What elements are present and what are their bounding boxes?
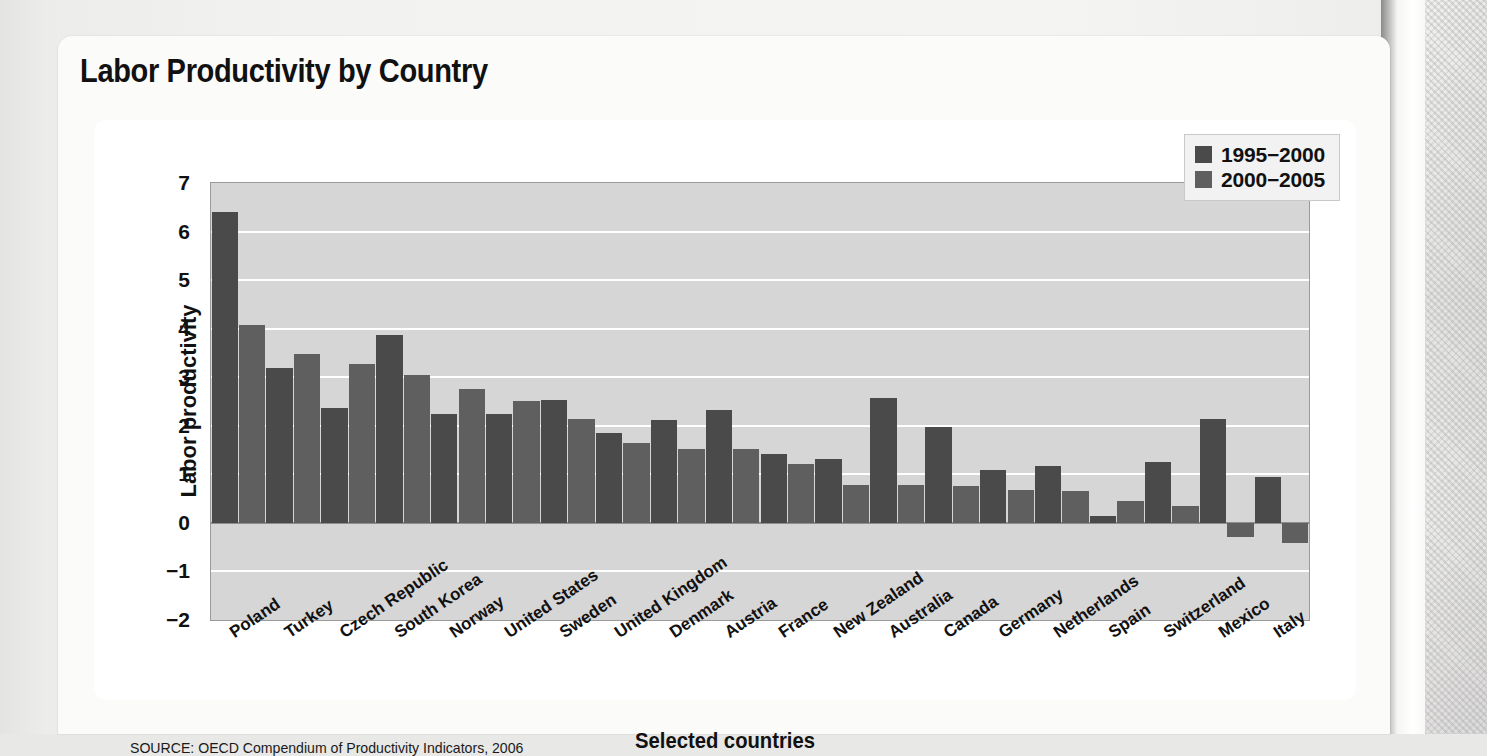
bar xyxy=(1035,466,1061,523)
y-tick-label: 1 xyxy=(130,462,190,486)
bar xyxy=(733,449,759,523)
bar xyxy=(1117,501,1143,523)
bar xyxy=(1282,523,1308,543)
bar xyxy=(788,464,814,523)
plot-area xyxy=(210,182,1310,621)
bar xyxy=(1255,477,1281,523)
bar-group xyxy=(1089,183,1144,620)
bar xyxy=(870,398,896,523)
bar xyxy=(212,212,238,523)
bar-group xyxy=(266,183,321,620)
y-tick-label: 2 xyxy=(130,414,190,438)
bar xyxy=(349,364,375,523)
bar xyxy=(459,389,485,523)
source-note: SOURCE: OECD Compendium of Productivity … xyxy=(130,739,523,756)
y-tick-label: −2 xyxy=(130,608,190,632)
figure-card: Labor Productivity by Country Labor prod… xyxy=(58,36,1390,734)
y-tick-label: 3 xyxy=(130,365,190,389)
y-tick-label: 6 xyxy=(130,220,190,244)
bar xyxy=(678,449,704,523)
bar-group xyxy=(705,183,760,620)
x-axis-tick-labels: PolandTurkeyCzech RepublicSouth KoreaNor… xyxy=(210,620,1308,730)
bar-group xyxy=(980,183,1035,620)
bar xyxy=(1200,419,1226,522)
bar xyxy=(815,459,841,523)
bar xyxy=(1145,462,1171,523)
bar-group xyxy=(760,183,815,620)
bar-group xyxy=(870,183,925,620)
bar-group xyxy=(211,183,266,620)
bar-group xyxy=(815,183,870,620)
bar xyxy=(376,335,402,522)
bar-group xyxy=(431,183,486,620)
y-tick-label: −1 xyxy=(130,559,190,583)
bar xyxy=(925,427,951,523)
bar xyxy=(1062,491,1088,523)
bar xyxy=(321,408,347,523)
bar-group xyxy=(321,183,376,620)
bar-group xyxy=(1199,183,1254,620)
bar xyxy=(486,414,512,523)
bar-group xyxy=(486,183,541,620)
legend-label-2000-2005: 2000−2005 xyxy=(1221,168,1325,192)
chart-legend: 1995−2000 2000−2005 xyxy=(1184,134,1340,201)
bar xyxy=(541,400,567,523)
bar xyxy=(651,420,677,523)
bar xyxy=(980,470,1006,522)
bar xyxy=(953,486,979,523)
bar-group xyxy=(376,183,431,620)
bar xyxy=(294,354,320,522)
legend-item: 2000−2005 xyxy=(1195,167,1325,192)
bar xyxy=(898,485,924,523)
bar xyxy=(568,419,594,522)
y-tick-label: 7 xyxy=(130,171,190,195)
bar xyxy=(761,454,787,523)
legend-swatch-2000-2005 xyxy=(1195,171,1212,188)
chart-title: Labor Productivity by Country xyxy=(80,52,488,90)
bar xyxy=(431,414,457,523)
y-tick-label: 0 xyxy=(130,511,190,535)
bar xyxy=(596,433,622,523)
bar xyxy=(843,485,869,523)
legend-item: 1995−2000 xyxy=(1195,142,1325,167)
plot-wrapper: 76543210−1−2 PolandTurkeyCzech RepublicS… xyxy=(94,120,1356,700)
bar-group xyxy=(1254,183,1309,620)
bar xyxy=(513,401,539,523)
bar-group xyxy=(1144,183,1199,620)
bar xyxy=(623,443,649,523)
chart-panel: Labor productivity 76543210−1−2 PolandTu… xyxy=(94,120,1356,700)
y-tick-label: 5 xyxy=(130,268,190,292)
bar xyxy=(1008,490,1034,523)
y-tick-label: 4 xyxy=(130,317,190,341)
bar xyxy=(404,375,430,523)
bar-group xyxy=(925,183,980,620)
bar-group xyxy=(1035,183,1090,620)
bar xyxy=(266,368,292,523)
bar-group xyxy=(650,183,705,620)
bar xyxy=(1090,516,1116,523)
bar xyxy=(239,325,265,523)
legend-label-1995-2000: 1995−2000 xyxy=(1221,143,1325,167)
bar-group xyxy=(595,183,650,620)
page-texture xyxy=(1425,0,1487,734)
bar xyxy=(706,410,732,523)
bar xyxy=(1172,506,1198,523)
bar-group xyxy=(540,183,595,620)
bar xyxy=(1227,523,1253,538)
legend-swatch-1995-2000 xyxy=(1195,146,1212,163)
